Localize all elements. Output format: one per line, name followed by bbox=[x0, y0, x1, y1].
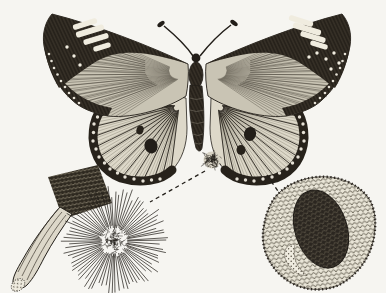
right-forewing bbox=[206, 14, 351, 117]
right-antenna bbox=[200, 25, 231, 56]
abdomen bbox=[189, 85, 204, 151]
butterfly bbox=[43, 14, 350, 183]
thorax bbox=[189, 62, 203, 88]
engraving-figure bbox=[0, 0, 386, 293]
left-antenna bbox=[164, 26, 193, 56]
head bbox=[192, 54, 201, 63]
right-hindwing-small-spot bbox=[237, 145, 246, 155]
left-forewing bbox=[43, 14, 188, 117]
wing-scales-detail bbox=[263, 177, 375, 290]
brush-handle bbox=[13, 207, 72, 289]
butterfly-engraving-svg bbox=[0, 0, 386, 293]
